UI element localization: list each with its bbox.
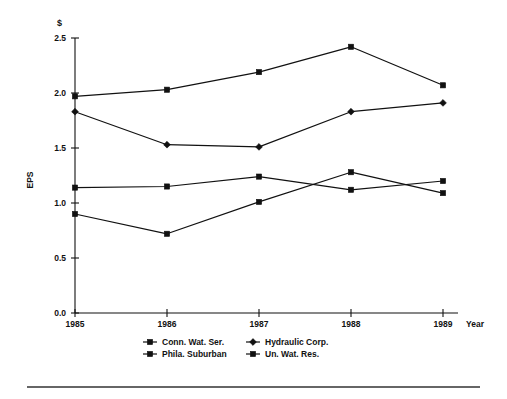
legend-item[interactable]: Phila. Suburban [143,349,227,359]
data-point [256,70,261,75]
y-tick-label: 0.5 [54,253,66,263]
data-point [440,191,445,196]
data-point [256,174,261,179]
data-series [72,170,445,237]
data-point [348,170,353,175]
x-axis-title: Year [466,319,485,329]
legend-label: Un. Wat. Res. [265,349,319,359]
data-point [164,87,169,92]
data-point [256,144,263,151]
data-series [72,174,445,192]
legend-marker-icon [147,351,152,356]
x-tick-label: 1987 [250,319,269,329]
x-axis-ticks: 19851986198719881989 [66,309,453,329]
data-point [440,100,447,107]
y-tick-label: 2.5 [54,33,66,43]
data-point [72,108,79,115]
y-tick-label: 0.0 [54,308,66,318]
legend-label: Phila. Suburban [162,349,227,359]
legend-item[interactable]: Un. Wat. Res. [246,349,319,359]
chart-container: $ EPS 0.00.51.01.52.02.5 198519861987198… [0,0,507,399]
legend-marker-icon [147,339,152,344]
data-point [348,187,353,192]
data-point [348,108,355,115]
data-series [72,100,447,151]
data-point [164,141,171,148]
x-tick-label: 1986 [158,319,177,329]
x-tick-label: 1989 [434,319,453,329]
series-layer [72,44,447,236]
legend-item[interactable]: Conn. Wat. Ser. [143,337,224,347]
currency-symbol: $ [57,18,62,28]
data-series [72,44,445,99]
data-point [440,83,445,88]
data-point [256,199,261,204]
eps-line-chart: $ EPS 0.00.51.01.52.02.5 198519861987198… [0,0,507,399]
data-point [72,185,77,190]
data-point [164,184,169,189]
legend-label: Hydraulic Corp. [265,337,328,347]
data-point [72,94,77,99]
chart-legend: Conn. Wat. Ser.Hydraulic Corp.Phila. Sub… [143,337,328,359]
y-axis-title: EPS [25,171,35,188]
legend-item[interactable]: Hydraulic Corp. [246,337,328,347]
data-point [348,44,353,49]
legend-marker-icon [250,351,255,356]
x-tick-label: 1988 [342,319,361,329]
legend-label: Conn. Wat. Ser. [162,337,224,347]
y-tick-label: 1.0 [54,198,66,208]
data-point [72,211,77,216]
x-tick-label: 1985 [66,319,85,329]
data-point [164,231,169,236]
legend-marker-icon [250,339,257,346]
axis-lines [75,38,458,313]
y-tick-label: 2.0 [54,88,66,98]
data-point [440,178,445,183]
y-tick-label: 1.5 [54,143,66,153]
